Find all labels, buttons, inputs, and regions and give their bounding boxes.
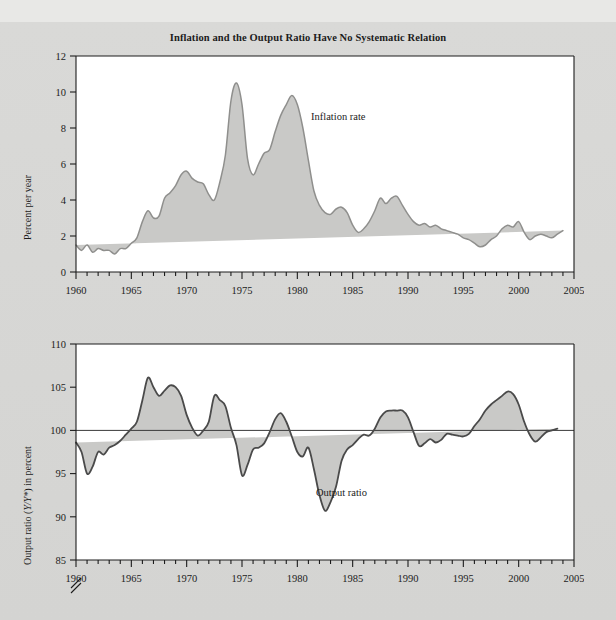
x-tick-label: 1980 xyxy=(287,285,308,296)
x-tick-label: 1970 xyxy=(176,573,197,584)
y-tick-label: 2 xyxy=(61,231,66,242)
x-tick-label: 1970 xyxy=(176,285,197,296)
y-label-part-1: Output ratio ( xyxy=(22,511,33,565)
x-tick-label: 1975 xyxy=(232,573,253,584)
page-title: Inflation and the Output Ratio Have No S… xyxy=(0,32,616,43)
x-tick-label: 1965 xyxy=(121,573,142,584)
y-tick-label: 10 xyxy=(56,87,67,98)
top-chart-y-axis-label: Percent per year xyxy=(22,175,33,240)
x-tick-label: 1985 xyxy=(342,573,363,584)
output-ratio-chart: 8590951001051101960196519701975198019851… xyxy=(36,336,584,604)
y-tick-label: 110 xyxy=(51,339,66,350)
axis-break-mark xyxy=(71,583,81,593)
x-tick-label: 1960 xyxy=(66,573,87,584)
x-tick-label: 1960 xyxy=(66,285,87,296)
x-tick-label: 2005 xyxy=(564,573,585,584)
series-annotation: Inflation rate xyxy=(311,111,366,122)
x-tick-label: 1990 xyxy=(398,285,419,296)
y-tick-label: 0 xyxy=(61,267,66,278)
y-tick-label: 6 xyxy=(61,159,66,170)
x-tick-label: 1990 xyxy=(398,573,419,584)
x-tick-label: 1995 xyxy=(453,285,474,296)
x-tick-label: 1980 xyxy=(287,573,308,584)
x-tick-label: 1985 xyxy=(342,285,363,296)
x-tick-label: 1975 xyxy=(232,285,253,296)
x-tick-label: 1965 xyxy=(121,285,142,296)
y-tick-label: 105 xyxy=(50,382,66,393)
x-tick-label: 1995 xyxy=(453,573,474,584)
y-label-symbol: Y/Y* xyxy=(22,492,33,511)
y-tick-label: 12 xyxy=(56,51,67,62)
figure-page: Inflation and the Output Ratio Have No S… xyxy=(0,0,616,620)
series-annotation: Output ratio xyxy=(316,487,367,498)
x-tick-label: 2000 xyxy=(508,285,529,296)
x-tick-label: 2000 xyxy=(508,573,529,584)
y-tick-label: 100 xyxy=(50,425,66,436)
inflation-rate-chart: 0246810121960196519701975198019851990199… xyxy=(36,48,584,316)
x-tick-label: 2005 xyxy=(564,285,585,296)
bottom-chart-y-axis-label: Output ratio (Y/Y*) in percent xyxy=(22,446,33,565)
output-ratio-chart-svg: 8590951001051101960196519701975198019851… xyxy=(36,336,584,604)
y-tick-label: 8 xyxy=(61,123,66,134)
inflation-chart-svg: 0246810121960196519701975198019851990199… xyxy=(36,48,584,316)
y-tick-label: 85 xyxy=(56,555,67,566)
y-label-part-2: ) in percent xyxy=(22,446,33,492)
y-tick-label: 95 xyxy=(56,468,67,479)
y-tick-label: 90 xyxy=(56,512,67,523)
y-tick-label: 4 xyxy=(61,195,67,206)
